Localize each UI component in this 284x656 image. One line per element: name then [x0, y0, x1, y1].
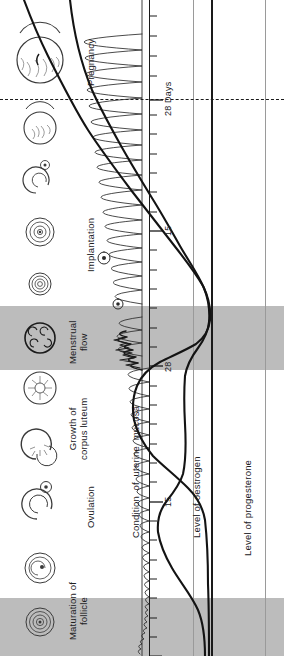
label-menstrual-flow: Menstrual flow: [68, 320, 89, 364]
implantation-blastocyst: [98, 252, 123, 309]
label-pregnancy: Pregnancy: [86, 39, 97, 86]
ovary-follicle-second-cycle: [23, 161, 50, 194]
label-ovulation: Ovulation: [86, 486, 97, 528]
day-scale-ticks: [149, 16, 163, 656]
tick-label-15-first: 15: [163, 497, 173, 507]
figure-stage: Maturation of follicle Growth of corpus …: [0, 0, 284, 656]
label-growth-of-corpus-luteum: Growth of corpus luteum: [68, 398, 89, 460]
label-level-of-oestrogen: Level of oestrogen: [192, 456, 203, 538]
ovary-follicle-ovulating: [22, 482, 52, 520]
ovary-follicle-primordial: [26, 608, 54, 636]
label-condition-of-uterine-mucosa: Condition of uterine mucosa: [131, 406, 142, 538]
tick-label-28-days: 28 Days: [163, 82, 173, 116]
ovary-corpus-albicans: [29, 273, 51, 295]
label-implantation: Implantation: [86, 218, 97, 272]
menstrual-cycle-figure: Maturation of follicle Growth of corpus …: [0, 0, 284, 656]
tick-label-28-first: 28: [163, 362, 173, 372]
ovary-corpus-luteum-regressing: [25, 323, 55, 353]
ovary-corpus-luteum-pregnancy-small: [24, 102, 56, 144]
ovary-corpus-luteum-young: [21, 429, 57, 466]
uterine-mucosa-profile: [84, 0, 149, 656]
ovary-follicle-growing: [25, 553, 55, 583]
ovary-series: [17, 22, 63, 636]
ovary-corpus-luteum-mature: [24, 372, 56, 404]
label-maturation-of-follicle: Maturation of follicle: [68, 582, 89, 640]
figure-graphics: [0, 0, 284, 656]
ovary-follicle-new-cycle: [26, 218, 54, 246]
tick-label-15-second: 15: [163, 226, 173, 236]
label-level-of-progesterone: Level of progesterone: [243, 460, 254, 556]
